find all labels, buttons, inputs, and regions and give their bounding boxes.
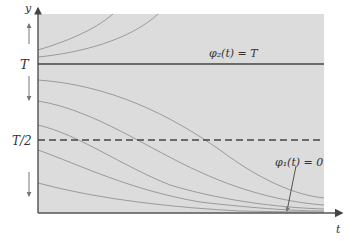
tick-T: T — [20, 57, 30, 72]
phase-line-figure: y t T T/2 φ₂(t) = T φ₁(t) = 0 — [0, 0, 355, 241]
x-axis-label: t — [336, 223, 341, 236]
phi1-label: φ₁(t) = 0 — [275, 156, 323, 169]
y-axis-label: y — [24, 2, 32, 15]
tick-T-half: T/2 — [12, 134, 32, 148]
phi2-label: φ₂(t) = T — [209, 47, 259, 60]
